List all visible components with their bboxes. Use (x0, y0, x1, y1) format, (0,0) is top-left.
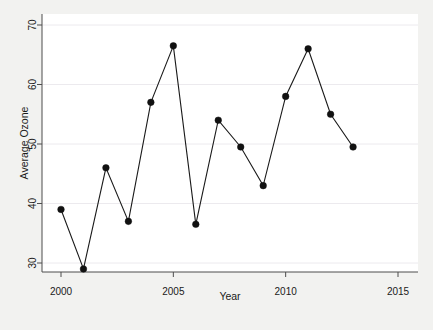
axes-group (42, 14, 418, 272)
x-tick-label-2005: 2005 (162, 286, 185, 297)
data-point-2004 (148, 99, 155, 106)
y-tick-label-30: 30 (27, 257, 38, 269)
data-point-2000 (58, 206, 65, 213)
y-axis-title: Average Ozone (18, 106, 30, 179)
tick-marks-group (37, 25, 398, 277)
y-tick-label-60: 60 (27, 79, 38, 91)
chart-figure: 30405060702000200520102015 YearAverage O… (0, 0, 433, 330)
x-axis-title: Year (219, 290, 241, 302)
data-point-2006 (193, 221, 200, 228)
series-group (58, 43, 357, 273)
x-tick-label-2010: 2010 (275, 286, 298, 297)
tick-labels-group: 30405060702000200520102015 (27, 19, 410, 297)
y-tick-label-40: 40 (27, 198, 38, 210)
data-point-2003 (125, 218, 132, 225)
data-point-2001 (80, 266, 87, 273)
data-point-2007 (215, 117, 222, 124)
gridlines-group (42, 25, 418, 263)
x-tick-label-2015: 2015 (387, 286, 410, 297)
data-point-2012 (327, 111, 334, 118)
data-point-2009 (260, 182, 267, 189)
data-point-2010 (282, 93, 289, 100)
y-tick-label-70: 70 (27, 19, 38, 31)
data-point-2008 (237, 144, 244, 151)
x-tick-label-2000: 2000 (50, 286, 73, 297)
data-point-2011 (305, 46, 312, 53)
data-point-2005 (170, 43, 177, 50)
data-point-2002 (103, 165, 110, 172)
series-line-average-ozone (61, 46, 353, 269)
chart-canvas: 30405060702000200520102015 YearAverage O… (0, 0, 433, 330)
axis-titles-group: YearAverage Ozone (18, 106, 241, 302)
data-point-2013 (350, 144, 357, 151)
